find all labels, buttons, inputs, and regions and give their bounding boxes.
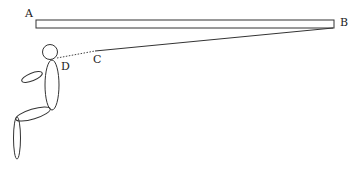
line-cb [95,28,333,51]
shin [14,117,21,159]
beam-ab [36,20,334,28]
arm [20,69,43,84]
label-d: D [61,60,70,73]
head [43,45,58,60]
diagram-canvas: A B C D [0,0,354,171]
label-c: C [93,53,101,66]
torso [45,60,59,110]
thigh [14,104,51,124]
label-b: B [340,16,348,29]
person-figure [14,45,60,160]
dotted-line-dc [57,51,95,58]
label-a: A [24,7,34,20]
